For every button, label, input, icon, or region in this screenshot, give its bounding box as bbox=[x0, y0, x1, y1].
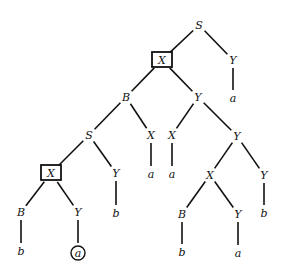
tree-node-B: B bbox=[177, 208, 186, 221]
tree-node-Y: Y bbox=[233, 130, 242, 143]
node-label: a bbox=[169, 168, 176, 181]
node-label: X bbox=[205, 169, 215, 182]
tree-node-S: S bbox=[85, 129, 93, 142]
node-label: Y bbox=[194, 91, 203, 104]
node-label: Y bbox=[234, 208, 243, 221]
tree-edge bbox=[177, 104, 194, 129]
tree-node-B: B bbox=[121, 91, 130, 104]
tree-node-B: B bbox=[16, 206, 25, 219]
tree-node-Y: Y bbox=[74, 206, 83, 219]
tree-node-X-boxed: X bbox=[41, 165, 61, 180]
tree-node-Y: Y bbox=[229, 54, 238, 67]
tree-node-Y: Y bbox=[260, 169, 269, 182]
node-label: Y bbox=[233, 130, 242, 143]
tree-edge bbox=[26, 182, 44, 206]
tree-edge bbox=[170, 31, 193, 53]
node-label: Y bbox=[260, 169, 269, 182]
node-label: X bbox=[146, 129, 156, 142]
node-label: X bbox=[167, 129, 177, 142]
tree-node-Y: Y bbox=[194, 91, 203, 104]
tree-edge bbox=[95, 103, 121, 130]
tree-edge bbox=[132, 68, 155, 91]
tree-edge bbox=[187, 182, 206, 208]
tree-edge bbox=[57, 182, 73, 205]
node-label: S bbox=[85, 129, 93, 142]
node-label: b bbox=[260, 207, 267, 220]
node-label: b bbox=[178, 246, 185, 259]
tree-node-b: b bbox=[112, 207, 119, 220]
tree-edge bbox=[94, 142, 112, 167]
node-label: b bbox=[17, 245, 24, 258]
tree-node-X: X bbox=[146, 129, 156, 142]
node-label: Y bbox=[229, 54, 238, 67]
parse-tree-diagram: SXYaBYSXXYaaXYXYBYbBYbbaba bbox=[0, 0, 285, 279]
tree-node-S: S bbox=[195, 19, 203, 32]
tree-node-b: b bbox=[260, 207, 267, 220]
node-label: Y bbox=[112, 167, 121, 180]
tree-node-a: a bbox=[148, 168, 155, 181]
tree-node-b: b bbox=[178, 246, 185, 259]
node-label: Y bbox=[74, 206, 83, 219]
tree-edge bbox=[215, 143, 233, 169]
tree-node-b: b bbox=[17, 245, 24, 258]
node-label: a bbox=[235, 247, 242, 260]
tree-node-a-circleed: a bbox=[71, 246, 85, 260]
tree-node-Y: Y bbox=[234, 208, 243, 221]
node-label: a bbox=[148, 168, 155, 181]
tree-node-X-boxed: X bbox=[152, 52, 172, 67]
node-label: a bbox=[75, 247, 82, 260]
node-label: B bbox=[121, 91, 130, 104]
tree-edge bbox=[204, 103, 232, 131]
tree-nodes: SXYaBYSXXYaaXYXYBYbBYbbaba bbox=[16, 19, 269, 260]
node-label: B bbox=[16, 206, 25, 219]
node-label: X bbox=[157, 54, 167, 67]
tree-node-a: a bbox=[169, 168, 176, 181]
tree-node-a: a bbox=[235, 247, 242, 260]
tree-edge bbox=[59, 141, 84, 166]
tree-node-X: X bbox=[167, 129, 177, 142]
tree-node-Y: Y bbox=[112, 167, 121, 180]
node-label: a bbox=[230, 92, 237, 105]
tree-edge bbox=[242, 143, 260, 169]
tree-edge bbox=[170, 68, 193, 91]
node-label: B bbox=[177, 208, 186, 221]
tree-edge bbox=[205, 31, 228, 55]
node-label: b bbox=[112, 207, 119, 220]
node-label: X bbox=[46, 167, 56, 180]
tree-node-X: X bbox=[205, 169, 215, 182]
tree-edge bbox=[130, 104, 146, 129]
tree-edge bbox=[215, 182, 234, 208]
tree-edges bbox=[21, 31, 264, 246]
node-label: S bbox=[195, 19, 203, 32]
tree-node-a: a bbox=[230, 92, 237, 105]
